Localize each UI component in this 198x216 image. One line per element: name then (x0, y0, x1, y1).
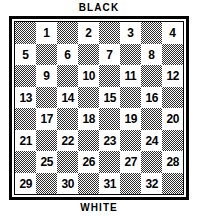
board-square-19[interactable]: 19 (120, 108, 141, 130)
board-square-12[interactable]: 12 (162, 65, 183, 87)
board-frame: 1234567891011121314151617181920212223242… (9, 16, 189, 200)
square-number-label: 14 (61, 91, 73, 104)
board-square-dark-r1c3[interactable] (57, 22, 78, 44)
square-number-label: 16 (145, 91, 157, 104)
square-number-label: 28 (166, 155, 178, 168)
board-square-2[interactable]: 2 (78, 22, 99, 44)
board-square-14[interactable]: 14 (57, 87, 78, 109)
square-number-label: 21 (19, 134, 31, 147)
board-square-dark-r1c5[interactable] (99, 22, 120, 44)
square-number-label: 27 (124, 155, 136, 168)
board-grid: 1234567891011121314151617181920212223242… (15, 22, 183, 194)
board-square-26[interactable]: 26 (78, 151, 99, 173)
board-square-dark-r2c2[interactable] (36, 44, 57, 66)
black-side-label: BLACK (0, 2, 198, 14)
board-square-dark-r8c6[interactable] (120, 173, 141, 195)
board-square-dark-r1c7[interactable] (141, 22, 162, 44)
board-square-21[interactable]: 21 (15, 130, 36, 152)
square-number-label: 11 (125, 69, 137, 82)
board-square-29[interactable]: 29 (15, 173, 36, 195)
board-square-dark-r4c4[interactable] (78, 87, 99, 109)
board-square-dark-r3c7[interactable] (141, 65, 162, 87)
board-inner-rule: 1234567891011121314151617181920212223242… (14, 21, 184, 195)
square-number-label: 30 (61, 177, 73, 190)
board-square-dark-r4c8[interactable] (162, 87, 183, 109)
board-square-dark-r6c2[interactable] (36, 130, 57, 152)
square-number-label: 4 (169, 26, 175, 39)
board-square-23[interactable]: 23 (99, 130, 120, 152)
board-square-dark-r4c6[interactable] (120, 87, 141, 109)
board-square-18[interactable]: 18 (78, 108, 99, 130)
square-number-label: 20 (166, 112, 178, 125)
square-number-label: 18 (82, 112, 94, 125)
square-number-label: 1 (43, 26, 49, 39)
square-number-label: 22 (61, 134, 73, 147)
square-number-label: 13 (19, 91, 31, 104)
square-number-label: 15 (103, 91, 115, 104)
square-number-label: 23 (103, 134, 115, 147)
square-number-label: 17 (40, 112, 52, 125)
square-number-label: 24 (145, 134, 157, 147)
board-square-dark-r3c3[interactable] (57, 65, 78, 87)
board-square-27[interactable]: 27 (120, 151, 141, 173)
board-square-4[interactable]: 4 (162, 22, 183, 44)
board-square-20[interactable]: 20 (162, 108, 183, 130)
board-square-31[interactable]: 31 (99, 173, 120, 195)
board-square-dark-r7c3[interactable] (57, 151, 78, 173)
board-square-5[interactable]: 5 (15, 44, 36, 66)
board-square-dark-r2c4[interactable] (78, 44, 99, 66)
board-square-32[interactable]: 32 (141, 173, 162, 195)
board-square-dark-r2c6[interactable] (120, 44, 141, 66)
board-square-dark-r6c4[interactable] (78, 130, 99, 152)
board-square-dark-r1c1[interactable] (15, 22, 36, 44)
board-square-dark-r3c1[interactable] (15, 65, 36, 87)
square-number-label: 2 (85, 26, 91, 39)
square-number-label: 5 (22, 48, 28, 61)
square-number-label: 26 (82, 155, 94, 168)
board-square-8[interactable]: 8 (141, 44, 162, 66)
board-square-13[interactable]: 13 (15, 87, 36, 109)
board-square-dark-r6c6[interactable] (120, 130, 141, 152)
board-square-dark-r6c8[interactable] (162, 130, 183, 152)
board-square-dark-r3c5[interactable] (99, 65, 120, 87)
board-square-16[interactable]: 16 (141, 87, 162, 109)
square-number-label: 12 (166, 69, 178, 82)
board-square-3[interactable]: 3 (120, 22, 141, 44)
board-square-1[interactable]: 1 (36, 22, 57, 44)
board-square-11[interactable]: 11 (120, 65, 141, 87)
square-number-label: 25 (40, 155, 52, 168)
board-square-dark-r8c8[interactable] (162, 173, 183, 195)
white-side-label: WHITE (0, 202, 198, 214)
board-square-dark-r7c1[interactable] (15, 151, 36, 173)
board-square-dark-r5c5[interactable] (99, 108, 120, 130)
square-number-label: 7 (106, 48, 112, 61)
square-number-label: 32 (145, 177, 157, 190)
board-square-7[interactable]: 7 (99, 44, 120, 66)
board-square-dark-r7c7[interactable] (141, 151, 162, 173)
board-square-dark-r7c5[interactable] (99, 151, 120, 173)
board-square-28[interactable]: 28 (162, 151, 183, 173)
board-square-dark-r5c7[interactable] (141, 108, 162, 130)
square-number-label: 6 (64, 48, 70, 61)
board-square-15[interactable]: 15 (99, 87, 120, 109)
board-square-6[interactable]: 6 (57, 44, 78, 66)
square-number-label: 31 (103, 177, 115, 190)
board-square-dark-r8c4[interactable] (78, 173, 99, 195)
board-square-24[interactable]: 24 (141, 130, 162, 152)
square-number-label: 3 (127, 26, 133, 39)
square-number-label: 10 (82, 69, 94, 82)
board-square-25[interactable]: 25 (36, 151, 57, 173)
board-square-9[interactable]: 9 (36, 65, 57, 87)
board-square-17[interactable]: 17 (36, 108, 57, 130)
board-square-10[interactable]: 10 (78, 65, 99, 87)
board-square-dark-r5c3[interactable] (57, 108, 78, 130)
board-square-30[interactable]: 30 (57, 173, 78, 195)
board-square-dark-r8c2[interactable] (36, 173, 57, 195)
board-square-dark-r4c2[interactable] (36, 87, 57, 109)
square-number-label: 29 (19, 177, 31, 190)
checkers-board-diagram: BLACK 1234567891011121314151617181920212… (0, 0, 198, 216)
board-square-dark-r2c8[interactable] (162, 44, 183, 66)
square-number-label: 19 (124, 112, 136, 125)
board-square-22[interactable]: 22 (57, 130, 78, 152)
board-square-dark-r5c1[interactable] (15, 108, 36, 130)
